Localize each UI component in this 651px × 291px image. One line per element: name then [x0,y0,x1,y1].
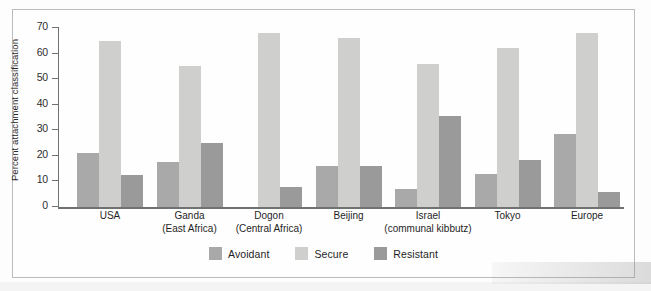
legend-swatch-secure [295,247,308,260]
y-axis-tick-label: 40 [37,97,48,109]
bar-group-bars [316,28,382,207]
x-axis-group-label-line1: Tokyo [494,210,520,221]
legend-label-secure: Secure [314,248,348,260]
legend-item-avoidant[interactable]: Avoidant [209,247,269,260]
bar-group: USA [77,28,143,207]
bar-secure[interactable] [99,41,121,207]
x-axis-group-label-line2: (Central Africa) [236,223,303,236]
y-axis-tick-label: 60 [37,46,48,58]
x-axis-group-label: Tokyo [494,210,520,223]
bar-group-bars [395,28,461,207]
bar-resistant[interactable] [519,160,541,207]
bar-resistant[interactable] [360,166,382,207]
y-axis-tick-label: 20 [37,148,48,160]
bar-secure[interactable] [258,33,280,207]
bar-avoidant[interactable] [77,153,99,207]
bar-secure[interactable] [417,64,439,207]
bar-group-bars [236,28,302,207]
bar-resistant[interactable] [280,187,302,207]
x-axis-group-label: USA [100,210,121,223]
bar-group: Europe [554,28,620,207]
y-axis-tick-label: 0 [42,199,48,211]
bar-secure[interactable] [497,48,519,207]
chart-frame: Percent attachment classification 010203… [12,9,635,278]
legend-item-secure[interactable]: Secure [295,247,348,260]
bar-group-bars [554,28,620,207]
bar-group: Tokyo [475,28,541,207]
legend-swatch-resistant [374,247,387,260]
x-axis-group-label-line1: Dogon [254,210,283,221]
scanned-page: Percent attachment classification 010203… [0,0,651,291]
legend-swatch-avoidant [209,247,222,260]
bar-group-bars [157,28,223,207]
y-axis-tick-label: 30 [37,122,48,134]
x-axis-group-label-line1: Israel [416,210,440,221]
bar-resistant[interactable] [598,192,620,207]
bar-group: Israel(communal kibbutz) [395,28,461,207]
x-axis-group-label-line1: USA [100,210,121,221]
bar-group: Dogon(Central Africa) [236,28,302,207]
x-axis-group-label-line2: (communal kibbutz) [384,223,471,236]
bar-group-bars [475,28,541,207]
bar-avoidant[interactable] [157,162,179,207]
x-axis-line [58,207,624,209]
bar-avoidant[interactable] [554,134,576,207]
plot-area: USAGanda(East Africa)Dogon(Central Afric… [58,28,622,207]
legend-label-avoidant: Avoidant [228,248,269,260]
y-axis-tick-label: 50 [37,71,48,83]
bar-resistant[interactable] [439,116,461,207]
bar-secure[interactable] [338,38,360,207]
x-axis-group-label-line1: Europe [571,210,603,221]
y-axis-tick-label: 10 [37,173,48,185]
x-axis-group-label: Europe [571,210,603,223]
bar-group-bars [77,28,143,207]
x-axis-group-label: Israel(communal kibbutz) [384,210,471,235]
bar-avoidant[interactable] [475,174,497,207]
scan-artifact-edge [0,282,651,291]
bar-secure[interactable] [576,33,598,207]
bar-resistant[interactable] [121,175,143,207]
x-axis-group-label: Beijing [333,210,363,223]
legend-item-resistant[interactable]: Resistant [374,247,438,260]
legend-label-resistant: Resistant [393,248,438,260]
x-axis-group-label-line1: Ganda [174,210,204,221]
bar-group: Ganda(East Africa) [157,28,223,207]
x-axis-group-label-line2: (East Africa) [162,223,216,236]
x-axis-group-label: Dogon(Central Africa) [236,210,303,235]
bar-avoidant[interactable] [316,166,338,207]
x-axis-group-label-line1: Beijing [333,210,363,221]
y-axis-tick-label: 70 [37,20,48,32]
bar-secure[interactable] [179,66,201,207]
x-axis-group-label: Ganda(East Africa) [162,210,216,235]
bar-avoidant[interactable] [395,189,417,207]
y-axis-title: Percent attachment classification [9,20,23,200]
bar-resistant[interactable] [201,143,223,207]
bar-group: Beijing [316,28,382,207]
chart-legend: AvoidantSecureResistant [13,247,634,260]
